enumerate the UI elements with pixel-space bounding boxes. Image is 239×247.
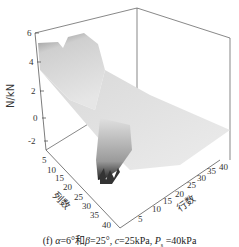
y-tick: 20	[175, 189, 185, 199]
x-tick: 40	[102, 220, 112, 230]
y-tick: 10	[152, 204, 162, 214]
figure-caption: (f) α=6°和β=25°, c=25kPa, Ps =40kPa	[0, 232, 239, 247]
y-tick: 35	[207, 166, 217, 176]
x-axis-label: 列数	[51, 189, 74, 212]
y-axis	[120, 160, 220, 228]
x-tick: 35	[90, 210, 100, 220]
y-tick: 5	[138, 214, 143, 224]
surface-plot: 6 4 2 0 -2 N/kN 5 10 15 20 25 30 35 40 列…	[0, 0, 239, 232]
z-tick: -2	[28, 136, 36, 146]
z-axis-label: N/kN	[5, 84, 16, 108]
z-tick: 0	[33, 113, 38, 123]
y-tick: 15	[163, 196, 173, 206]
z-tick: 2	[31, 86, 36, 96]
y-tick: 25	[187, 180, 197, 190]
surface	[38, 33, 230, 184]
y-tick: 40	[219, 162, 229, 172]
y-tick: 30	[197, 173, 207, 183]
z-tick: 4	[29, 57, 34, 67]
x-tick: 20	[63, 182, 73, 192]
x-tick: 5	[42, 155, 47, 165]
z-tick: 6	[27, 28, 32, 38]
